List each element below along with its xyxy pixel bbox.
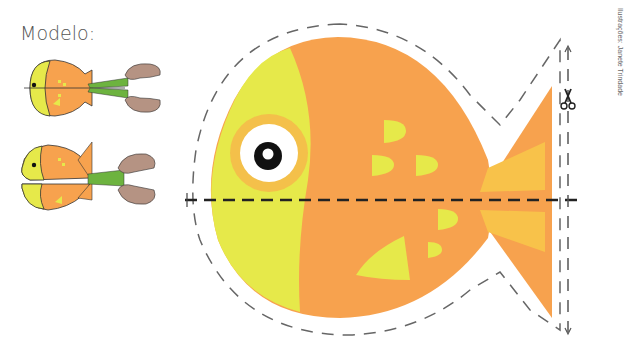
fish-cutout-illustration (0, 0, 633, 358)
big-fish (211, 37, 552, 318)
model-fish-2 (22, 142, 155, 210)
model-fish-1 (24, 60, 160, 116)
